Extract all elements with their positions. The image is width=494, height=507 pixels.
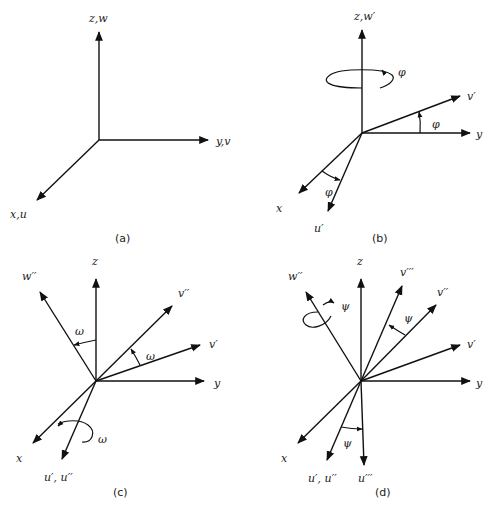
panel-caption: (c) xyxy=(113,486,128,499)
z-axis-label: z xyxy=(91,255,98,268)
v-prime-axis-arrow xyxy=(361,345,460,381)
x-axis-arrow xyxy=(33,381,96,443)
z-axis-label: z,w xyxy=(88,12,108,25)
x-axis-label: x xyxy=(281,452,288,465)
u-triple-prime-axis-arrow xyxy=(361,381,364,465)
angle-label-z-wdoubleprime: ω xyxy=(75,325,84,338)
u-prime-axis-label: u′ xyxy=(314,222,324,235)
angle-arc-uprime-utripleprime xyxy=(341,427,362,429)
v-prime-axis-label: v′ xyxy=(467,338,476,351)
x-axis-arrow xyxy=(298,381,361,443)
angle-label-vprime-vdoubleprime: ω xyxy=(146,350,155,363)
u-prime-axis-arrow xyxy=(328,133,362,211)
x-axis-label: x xyxy=(16,452,23,465)
panel-caption: (b) xyxy=(372,232,388,245)
angle-arc-z-wdoubleprime xyxy=(74,340,96,345)
w-double-prime-axis-label: w′′ xyxy=(288,270,303,283)
angle-label-x-uprime: φ xyxy=(325,186,333,199)
rotation-angle-label: φ xyxy=(398,66,406,79)
x-axis-label: x,u xyxy=(10,208,27,221)
u-prime-axis-label: u′, u′′ xyxy=(308,472,337,485)
x-axis-arrow xyxy=(299,133,362,193)
y-axis-label: y,v xyxy=(215,135,231,148)
angle-arc-x-uprime xyxy=(322,171,340,180)
angle-arc-vdoubleprime-vtripleprime xyxy=(389,325,405,335)
angle-label-uprime-utripleprime: ψ xyxy=(343,437,352,450)
w-double-prime-axis-arrow xyxy=(40,292,96,381)
z-axis-label: z,w′ xyxy=(353,10,376,23)
v-prime-axis-arrow xyxy=(362,96,460,133)
y-axis-label: y xyxy=(213,377,221,390)
y-axis-label: y xyxy=(475,377,483,390)
rotation-arrow-icon xyxy=(58,421,93,442)
v-double-prime-axis-label: v′′ xyxy=(437,286,449,299)
panel-c: ω ω ω z w′′ v′′ v′ y x u′, u′′ (c) xyxy=(16,255,221,499)
euler-rotation-diagram: z,w y,v x,u (a) φ φ φ z,w′ y v′ x u′ (b) xyxy=(0,0,494,507)
z-axis-label: z xyxy=(356,255,363,268)
v-double-prime-axis-label: v′′ xyxy=(178,287,190,300)
v-double-prime-axis-arrow xyxy=(96,306,172,381)
panel-caption: (a) xyxy=(115,232,130,245)
x-axis-arrow xyxy=(37,140,99,200)
panel-a: z,w y,v x,u (a) xyxy=(10,12,231,245)
u-prime-axis-arrow xyxy=(62,381,96,459)
rotation-angle-label: ψ xyxy=(341,300,350,313)
angle-arc-y-vprime xyxy=(419,112,420,133)
panel-b: φ φ φ z,w′ y v′ x u′ (b) xyxy=(276,10,483,245)
y-axis-label: y xyxy=(475,128,483,141)
v-double-prime-axis-arrow xyxy=(361,305,436,381)
u-triple-prime-axis-label: u′′′ xyxy=(358,472,373,485)
x-axis-label: x xyxy=(276,202,283,215)
v-prime-axis-label: v′ xyxy=(209,338,218,351)
rotation-arrowhead-icon xyxy=(323,302,334,305)
rotation-angle-label: ω xyxy=(98,433,107,446)
panel-d: ψ ψ ψ z w′′ v′′′ v′′ v′ y x u′, u′′ u′′′… xyxy=(281,255,483,499)
w-double-prime-axis-label: w′′ xyxy=(22,270,37,283)
v-triple-prime-axis-label: v′′′ xyxy=(400,266,414,279)
angle-label-vdoubleprime-vtripleprime: ψ xyxy=(404,312,413,325)
v-prime-axis-label: v′ xyxy=(467,90,476,103)
angle-arc-vprime-vdoubleprime xyxy=(131,349,140,365)
u-prime-axis-label: u′, u′′ xyxy=(44,471,73,484)
panel-caption: (d) xyxy=(375,486,391,499)
v-triple-prime-axis-arrow xyxy=(361,286,402,381)
w-double-prime-axis-arrow xyxy=(306,292,361,381)
angle-label-y-vprime: φ xyxy=(432,118,440,131)
